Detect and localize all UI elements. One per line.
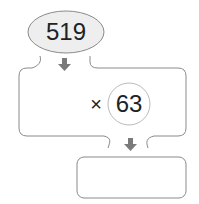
multiplier-value: 63 bbox=[108, 91, 150, 117]
input-value: 519 bbox=[28, 19, 104, 45]
operator-sign: × bbox=[88, 93, 104, 115]
arrow-down-icon bbox=[58, 58, 71, 71]
result-box bbox=[77, 157, 186, 198]
arrow-down-icon bbox=[124, 138, 137, 151]
